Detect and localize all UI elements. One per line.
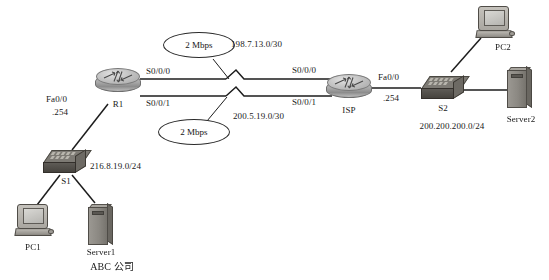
- bandwidth-badge-lower: 2 Mbps: [158, 119, 230, 145]
- pc-mouse: [48, 229, 54, 234]
- leader-lower-bandwidth: [207, 97, 227, 121]
- device-label-server2: Server2: [507, 115, 536, 124]
- router-arrow-glyphs: [101, 69, 135, 84]
- diagram-caption: ABC 公司: [90, 262, 134, 272]
- link-s1-server1: [72, 175, 95, 203]
- link-s2-pc2: [451, 38, 481, 72]
- network-topology-diagram: R1 Fa0/0 .254 S0/0/0 S0/0/1 2 Mbps 2 Mbp…: [0, 0, 549, 280]
- router-icon: [95, 67, 141, 97]
- device-label-s2: S2: [438, 104, 448, 113]
- interface-label-isp-s000: S0/0/0: [292, 66, 316, 75]
- network-label-lan-isp: 200.200.200.0/24: [420, 122, 485, 131]
- server-icon: [507, 66, 533, 108]
- switch-port-markings: [425, 78, 458, 86]
- bandwidth-label-lower: 2 Mbps: [180, 127, 207, 137]
- pc-base: [475, 30, 512, 38]
- switch-front-face: [43, 162, 76, 173]
- device-label-s1: S1: [61, 177, 71, 186]
- interface-label-isp-fa00-ip: .254: [383, 94, 399, 103]
- router-icon: [326, 73, 372, 103]
- pc-icon: [15, 204, 55, 240]
- router-arrow-glyphs: [332, 75, 366, 90]
- device-pc2[interactable]: [476, 6, 516, 42]
- device-label-pc2: PC2: [495, 43, 511, 52]
- pc-monitor: [478, 6, 509, 31]
- pc-screen: [23, 208, 44, 224]
- bandwidth-label-upper: 2 Mbps: [185, 40, 212, 50]
- device-s2[interactable]: [421, 76, 465, 100]
- device-r1[interactable]: [95, 67, 141, 97]
- link-r1-s1: [72, 104, 108, 150]
- interface-label-isp-fa00: Fa0/0: [378, 73, 399, 82]
- device-label-isp: ISP: [342, 106, 355, 115]
- interface-label-r1-s001: S0/0/1: [146, 99, 170, 108]
- interface-label-r1-s000: S0/0/0: [146, 67, 170, 76]
- device-label-r1: R1: [113, 100, 124, 109]
- pc-mouse: [509, 31, 515, 36]
- network-label-wan-lower: 200.5.19.0/30: [233, 112, 284, 121]
- pc-monitor: [17, 204, 48, 229]
- device-s1[interactable]: [43, 150, 87, 174]
- leader-upper-bandwidth: [213, 59, 229, 79]
- interface-label-isp-s001: S0/0/1: [292, 98, 316, 107]
- interface-label-r1-fa00: Fa0/0: [46, 95, 67, 104]
- pc-icon: [476, 6, 516, 42]
- server-icon: [88, 203, 114, 245]
- link-s1-pc1: [37, 175, 60, 205]
- network-label-lan-abc: 216.8.19.0/24: [90, 162, 141, 171]
- network-label-wan-upper: 198.7.13.0/30: [231, 40, 282, 49]
- interface-label-r1-fa00-ip: .254: [52, 108, 68, 117]
- device-isp[interactable]: [326, 73, 372, 103]
- switch-icon: [43, 150, 87, 174]
- switch-front-face: [421, 88, 454, 99]
- switch-icon: [421, 76, 465, 100]
- switch-port-markings: [47, 152, 80, 160]
- serial-lower-zigzag: [226, 87, 332, 96]
- device-server1[interactable]: [88, 203, 114, 245]
- server-drive-bay: [511, 74, 523, 78]
- device-pc1[interactable]: [15, 204, 55, 240]
- device-label-pc1: PC1: [25, 243, 41, 252]
- bandwidth-badge-upper: 2 Mbps: [163, 32, 235, 58]
- device-server2[interactable]: [507, 66, 533, 108]
- server-drive-bay: [92, 211, 104, 215]
- pc-base: [14, 228, 51, 236]
- device-label-server1: Server1: [87, 248, 116, 257]
- pc-screen: [484, 10, 505, 26]
